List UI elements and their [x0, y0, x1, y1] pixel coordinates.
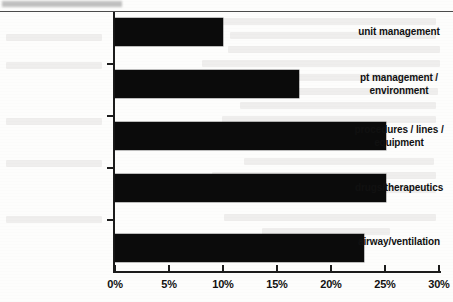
x-axis-tick — [276, 265, 278, 272]
y-axis-tick — [107, 219, 114, 221]
scanned-page: unit management pt management / environm… — [0, 0, 453, 302]
y-axis-tick — [107, 63, 114, 65]
x-axis-label-5: 5% — [147, 278, 191, 290]
x-axis-tick — [384, 265, 386, 272]
category-label-procedures-lines: procedures / lines / equipment — [345, 124, 453, 149]
x-axis-label-20: 20% — [309, 278, 353, 290]
x-axis-label-0: 0% — [93, 278, 137, 290]
category-label-line: airway/ventilation — [358, 236, 440, 247]
x-axis-tick — [330, 265, 332, 272]
y-axis-tick — [107, 115, 114, 117]
x-axis-tick — [438, 265, 440, 272]
category-label-line: environment — [370, 85, 429, 96]
x-axis-label-10: 10% — [201, 278, 245, 290]
category-label-unit-management: unit management — [345, 26, 453, 39]
category-label-line: pt management / — [360, 72, 438, 83]
category-label-pt-management: pt management / environment — [345, 72, 453, 97]
x-axis-tick — [114, 265, 116, 272]
bar-pt-management — [115, 70, 299, 98]
category-label-line: equipment — [374, 137, 424, 148]
category-label-line: unit management — [358, 26, 439, 37]
x-axis-label-25: 25% — [363, 278, 407, 290]
bar-unit-management — [115, 18, 223, 46]
category-label-airway-ventilation: airway/ventilation — [345, 236, 453, 249]
category-label-line: drugs/therapeutics — [355, 182, 443, 193]
x-axis-label-30: 30% — [417, 278, 453, 290]
category-label-line: procedures / lines / — [354, 124, 443, 135]
horizontal-bar-chart: unit management pt management / environm… — [0, 0, 453, 302]
x-axis-tick — [222, 265, 224, 272]
category-label-drugs-therapeutics: drugs/therapeutics — [345, 182, 453, 195]
bar-airway-ventilation — [115, 234, 364, 262]
y-axis-tick — [107, 167, 114, 169]
x-axis-tick — [168, 265, 170, 272]
x-axis-label-15: 15% — [255, 278, 299, 290]
